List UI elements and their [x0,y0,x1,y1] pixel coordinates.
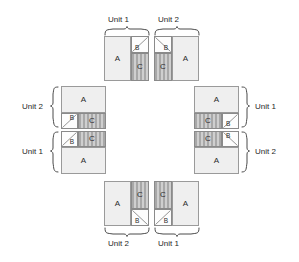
block-b-right-bottom[interactable]: B [222,131,239,147]
block-b-top-right[interactable]: B [154,36,172,53]
block-b-bottom-left[interactable]: B [131,209,149,226]
block-b-top-left[interactable]: B [131,36,149,53]
block-a-top-right[interactable]: A [172,36,199,81]
block-label: A [183,55,188,63]
block-label: C [137,63,143,71]
block-a-left-top[interactable]: A [61,86,106,113]
block-label: C [160,191,166,199]
unit-label-top-left: Unit 1 [108,16,129,24]
block-c-top-left[interactable]: C [131,53,149,81]
block-label: A [81,96,86,104]
block-label: B [135,218,139,225]
block-b-left-bottom[interactable]: B [61,131,78,147]
block-label: C [137,191,143,199]
brace-right-top [241,86,250,128]
block-a-bottom-left[interactable]: A [104,181,131,226]
block-label: B [226,133,230,140]
block-c-left-bottom[interactable]: C [78,131,106,147]
block-label: A [81,157,86,165]
block-c-top-right[interactable]: C [154,53,172,81]
brace-top-left [104,26,150,35]
brace-left-bottom [50,131,59,173]
unit-label-top-right: Unit 2 [158,16,179,24]
block-label: B [70,115,74,122]
block-a-right-bottom[interactable]: A [194,147,239,174]
block-a-top-left[interactable]: A [104,36,131,81]
block-label: A [214,96,219,104]
block-label: C [205,135,211,143]
block-b-right-top[interactable]: B [222,113,239,129]
block-label: C [205,117,211,125]
brace-bottom-right [154,228,200,237]
block-label: C [89,135,95,143]
block-label: B [164,218,168,225]
block-c-right-top[interactable]: C [194,113,222,129]
block-a-bottom-right[interactable]: A [172,181,199,226]
block-label: A [115,200,120,208]
brace-bottom-left [104,228,150,237]
block-label: A [214,157,219,165]
block-a-left-bottom[interactable]: A [61,147,106,174]
block-label: B [164,45,168,52]
unit-label-bottom-right: Unit 1 [158,240,179,248]
block-b-left-top[interactable]: B [61,113,78,129]
block-c-bottom-left[interactable]: C [131,181,149,209]
brace-right-bottom [241,131,250,173]
brace-top-right [154,26,200,35]
block-label: C [89,117,95,125]
block-c-bottom-right[interactable]: C [154,181,172,209]
block-label: A [183,200,188,208]
block-label: C [160,63,166,71]
diagram-canvas: Unit 1 Unit 2 A B C B C A Unit 2 Unit 1 [0,0,299,262]
brace-left-top [50,86,59,128]
block-label: B [226,121,230,128]
unit-label-left-bottom: Unit 1 [22,148,43,156]
block-b-bottom-right[interactable]: B [154,209,172,226]
unit-label-left-top: Unit 2 [22,103,43,111]
block-label: A [115,55,120,63]
unit-label-right-bottom: Unit 2 [255,148,276,156]
block-label: B [70,139,74,146]
block-a-right-top[interactable]: A [194,86,239,113]
block-label: B [135,45,139,52]
unit-label-bottom-left: Unit 2 [108,240,129,248]
unit-label-right-top: Unit 1 [255,103,276,111]
block-c-right-bottom[interactable]: C [194,131,222,147]
block-c-left-top[interactable]: C [78,113,106,129]
